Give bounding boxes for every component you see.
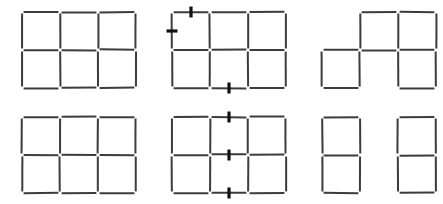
panel-start-grid-bottom xyxy=(18,113,140,197)
panel-canvas xyxy=(168,113,290,197)
panel-marked-grid-top xyxy=(168,8,290,92)
panel-result-grid-bottom xyxy=(318,113,440,197)
panel-canvas xyxy=(318,113,440,197)
panel-canvas xyxy=(318,8,440,92)
panel-marked-grid-bottom xyxy=(168,113,290,197)
panel-canvas xyxy=(18,113,140,197)
panel-canvas xyxy=(18,8,140,92)
matchstick-puzzle-figure xyxy=(0,0,443,204)
panel-result-grid-top xyxy=(318,8,440,92)
panel-canvas xyxy=(168,8,290,92)
panel-start-grid-top xyxy=(18,8,140,92)
